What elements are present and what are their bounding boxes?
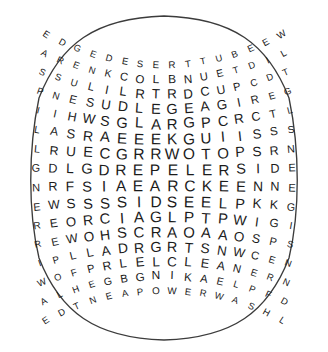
grid-letter: P bbox=[52, 254, 61, 265]
grid-letter: N bbox=[88, 296, 98, 307]
grid-letter: S bbox=[116, 194, 127, 210]
grid-letter: G bbox=[183, 131, 195, 147]
grid-letter: K bbox=[201, 179, 211, 195]
grid-letter: A bbox=[217, 227, 228, 242]
grid-letter: R bbox=[55, 55, 65, 66]
grid-letter: T bbox=[282, 68, 291, 79]
grid-letter: C bbox=[133, 225, 145, 240]
grid-letter: E bbox=[50, 235, 60, 247]
grid-letter: R bbox=[134, 87, 145, 101]
grid-letter: L bbox=[185, 162, 194, 178]
grid-letter: G bbox=[116, 115, 129, 131]
grid-letter: G bbox=[82, 162, 94, 177]
grid-letter: U bbox=[215, 53, 224, 64]
grid-letter: H bbox=[71, 284, 81, 295]
grid-letter: R bbox=[33, 220, 42, 231]
grid-letter: A bbox=[150, 178, 160, 194]
grid-letter: R bbox=[116, 162, 127, 178]
grid-letter: A bbox=[200, 273, 209, 285]
grid-letter: N bbox=[87, 65, 96, 76]
grid-letter: I bbox=[53, 109, 58, 120]
grid-letter: N bbox=[216, 243, 228, 258]
grid-letter: D bbox=[49, 162, 58, 175]
grid-letter: E bbox=[133, 178, 143, 194]
grid-letter: E bbox=[167, 162, 177, 178]
grid-letter: G bbox=[287, 201, 296, 212]
grid-letter: A bbox=[200, 100, 211, 115]
grid-letter: E bbox=[249, 267, 258, 278]
grid-letter: S bbox=[82, 179, 92, 194]
grid-letter: E bbox=[50, 217, 60, 230]
grid-letter: L bbox=[277, 316, 287, 327]
grid-letter: W bbox=[231, 246, 245, 261]
grid-letter: R bbox=[199, 289, 207, 299]
grid-letter: A bbox=[150, 116, 160, 131]
grid-letter: L bbox=[152, 74, 159, 86]
grid-letter: R bbox=[167, 178, 178, 194]
grid-letter: C bbox=[250, 249, 261, 262]
grid-letter: E bbox=[121, 57, 129, 67]
grid-letter: G bbox=[135, 271, 145, 283]
grid-letter: I bbox=[119, 210, 124, 225]
grid-letter: S bbox=[285, 239, 293, 250]
grid-letter: A bbox=[216, 259, 226, 272]
grid-letter: O bbox=[217, 145, 229, 161]
grid-letter: G bbox=[183, 116, 195, 131]
grid-letter: S bbox=[246, 301, 256, 312]
grid-letter: A bbox=[39, 48, 49, 59]
grid-letter: E bbox=[133, 131, 144, 147]
grid-letter: O bbox=[152, 286, 160, 296]
grid-letter: E bbox=[288, 163, 296, 174]
grid-letter: E bbox=[153, 60, 160, 70]
grid-letter: R bbox=[134, 240, 145, 255]
grid-letter: H bbox=[66, 110, 77, 124]
grid-letter: E bbox=[116, 130, 127, 146]
grid-letter: P bbox=[200, 115, 211, 130]
grid-letter: E bbox=[216, 68, 225, 80]
grid-letter: E bbox=[105, 292, 114, 303]
grid-letter: H bbox=[261, 308, 271, 319]
grid-letter: L bbox=[86, 81, 95, 93]
grid-letter: O bbox=[53, 272, 63, 283]
grid-letter: L bbox=[219, 195, 228, 210]
grid-letter: L bbox=[55, 290, 64, 301]
grid-letter: P bbox=[137, 287, 144, 297]
grid-letter: P bbox=[235, 196, 245, 211]
grid-letter: U bbox=[100, 98, 112, 113]
grid-letter: D bbox=[56, 308, 66, 319]
grid-letter: R bbox=[101, 259, 112, 273]
grid-letter: N bbox=[52, 91, 62, 102]
grid-letter: P bbox=[235, 145, 245, 160]
grid-letter: D bbox=[279, 296, 289, 307]
grid-letter: P bbox=[150, 162, 160, 178]
grid-letter: N bbox=[32, 182, 40, 193]
grid-letter: G bbox=[150, 240, 162, 255]
grid-letter: L bbox=[119, 257, 128, 271]
grid-letter: F bbox=[70, 267, 79, 278]
grid-letter: E bbox=[200, 257, 210, 271]
grid-letter: S bbox=[53, 73, 62, 84]
grid-letter: L bbox=[33, 144, 40, 155]
grid-letter: T bbox=[201, 146, 211, 162]
grid-letter: S bbox=[269, 126, 279, 139]
grid-letter: N bbox=[232, 263, 243, 276]
grid-letter: G bbox=[103, 276, 113, 288]
grid-letter: E bbox=[133, 162, 143, 178]
grid-letter: R bbox=[49, 144, 59, 157]
grid-letter: G bbox=[32, 163, 41, 174]
grid-letter: O bbox=[183, 146, 195, 162]
grid-letter: G bbox=[216, 98, 228, 113]
grid-letter: E bbox=[41, 315, 51, 326]
grid-letter: E bbox=[201, 162, 211, 178]
grid-letter: C bbox=[250, 110, 261, 124]
grid-letter: N bbox=[252, 180, 262, 194]
grid-letter: R bbox=[233, 112, 245, 127]
grid-letter: T bbox=[184, 240, 194, 255]
grid-letter: S bbox=[251, 232, 261, 246]
grid-letter: E bbox=[267, 254, 276, 265]
grid-letter: C bbox=[99, 211, 111, 227]
grid-letter: R bbox=[167, 240, 178, 255]
grid-letter: A bbox=[116, 179, 126, 195]
grid-letter: S bbox=[99, 195, 110, 210]
grid-letter: L bbox=[66, 162, 74, 176]
